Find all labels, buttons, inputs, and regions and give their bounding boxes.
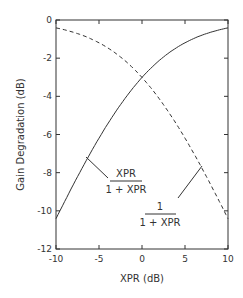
y-tick-label: -6 <box>43 130 52 140</box>
annotation-den: 1 + XPR <box>106 184 147 195</box>
annotation-num: XPR <box>116 168 136 179</box>
y-tick-label: -10 <box>37 206 52 216</box>
y-tick-label: -2 <box>43 53 52 63</box>
y-tick-label: -8 <box>43 168 52 178</box>
y-axis-label: Gain Degradation (dB) <box>15 78 26 191</box>
y-tick-label: -4 <box>43 91 52 101</box>
chart: -10-505100-2-4-6-8-10-12XPR1 + XPR11 + X… <box>0 0 243 298</box>
y-tick-label: 0 <box>46 15 52 25</box>
x-tick-label: 10 <box>222 254 234 264</box>
annotation-leader <box>178 166 202 198</box>
annotation-den: 1 + XPR <box>140 217 181 228</box>
plot-area: -10-505100-2-4-6-8-10-12XPR1 + XPR11 + X… <box>0 0 243 298</box>
x-axis-label: XPR (dB) <box>120 273 164 284</box>
x-tick-label: 5 <box>182 254 188 264</box>
x-tick-label: -10 <box>49 254 64 264</box>
plot-frame <box>56 20 228 249</box>
x-tick-label: 0 <box>139 254 145 264</box>
y-tick-label: -12 <box>37 244 52 254</box>
annotation-num: 1 <box>157 201 163 212</box>
annotation-leader <box>86 157 108 178</box>
x-tick-label: -5 <box>95 254 104 264</box>
